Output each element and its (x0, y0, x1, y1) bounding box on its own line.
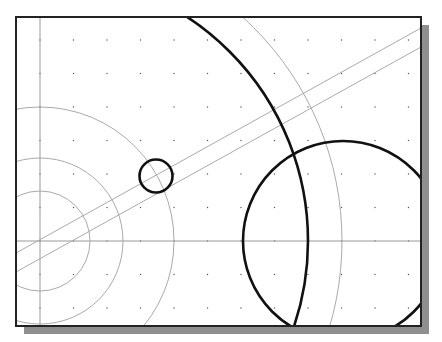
grid-dot (240, 207, 241, 208)
grid-dot (106, 106, 107, 107)
grid-dot (408, 73, 409, 74)
grid-dot (374, 106, 375, 107)
grid-dot (408, 307, 409, 308)
grid-dot (341, 307, 342, 308)
grid-dot (207, 140, 208, 141)
grid-dot (207, 207, 208, 208)
grid-dot (307, 207, 308, 208)
grid-dot (374, 307, 375, 308)
grid-dot (207, 39, 208, 40)
grid-dot (408, 274, 409, 275)
grid-dot (274, 73, 275, 74)
grid-dot (73, 39, 74, 40)
grid-dot (173, 73, 174, 74)
grid-dot (106, 173, 107, 174)
grid-dot (374, 207, 375, 208)
grid-dot (341, 274, 342, 275)
grid-dot (341, 106, 342, 107)
grid-dot (140, 73, 141, 74)
grid-dot (173, 39, 174, 40)
grid-dot (307, 307, 308, 308)
grid-dot (274, 140, 275, 141)
grid-dot (73, 73, 74, 74)
drawing-area[interactable] (16, 17, 421, 326)
grid-dot (374, 173, 375, 174)
grid-dot (240, 140, 241, 141)
grid-dot (173, 140, 174, 141)
grid-dot (307, 106, 308, 107)
grid-dot (307, 173, 308, 174)
grid-dot (106, 274, 107, 275)
grid-dot (173, 207, 174, 208)
grid-dot (140, 274, 141, 275)
grid-dot (341, 207, 342, 208)
grid-dot (307, 39, 308, 40)
grid-dot (307, 73, 308, 74)
grid-dot (240, 106, 241, 107)
grid-dot (106, 207, 107, 208)
grid-dot (341, 173, 342, 174)
grid-dot (140, 140, 141, 141)
grid-dot (73, 140, 74, 141)
grid-dot (173, 274, 174, 275)
grid-dot (73, 274, 74, 275)
grid-dot (374, 140, 375, 141)
grid-dot (274, 39, 275, 40)
grid-dot (73, 207, 74, 208)
grid-dot (274, 173, 275, 174)
grid-dot (274, 106, 275, 107)
grid-dot (274, 207, 275, 208)
grid-dot (173, 106, 174, 107)
grid-dot (408, 140, 409, 141)
grid-dot (73, 106, 74, 107)
grid-dot (374, 274, 375, 275)
grid-dot (408, 207, 409, 208)
cad-drawing-canvas[interactable] (0, 0, 442, 342)
grid-dot (341, 73, 342, 74)
grid-dot (240, 39, 241, 40)
grid-dot (374, 39, 375, 40)
grid-dot (106, 307, 107, 308)
grid-dot (140, 106, 141, 107)
grid-dot (207, 307, 208, 308)
grid-dot (73, 173, 74, 174)
grid-dot (173, 307, 174, 308)
grid-dot (408, 173, 409, 174)
grid-dot (240, 73, 241, 74)
grid-dot (240, 274, 241, 275)
grid-dot (408, 39, 409, 40)
grid-dot (307, 140, 308, 141)
grid-dot (140, 39, 141, 40)
grid-dot (240, 173, 241, 174)
grid-dot (274, 307, 275, 308)
grid-dot (207, 274, 208, 275)
grid-dot (106, 39, 107, 40)
grid-dot (240, 307, 241, 308)
grid-dot (207, 173, 208, 174)
grid-dot (106, 140, 107, 141)
grid-dot (140, 207, 141, 208)
grid-dot (274, 274, 275, 275)
grid-dot (140, 307, 141, 308)
grid-dot (207, 73, 208, 74)
grid-dot (341, 39, 342, 40)
grid-dot (408, 106, 409, 107)
grid-dot (73, 307, 74, 308)
grid-dot (307, 274, 308, 275)
grid-dot (106, 73, 107, 74)
grid-dot (207, 106, 208, 107)
